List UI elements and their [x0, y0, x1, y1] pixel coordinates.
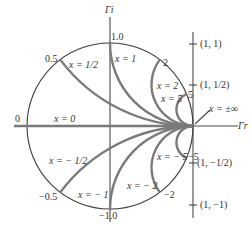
label-0-5: 0.5: [45, 53, 58, 64]
tick-label-1-neg-half: (1, −1/2): [197, 157, 232, 169]
label-top-1: 1.0: [111, 31, 124, 42]
smith-chart-diagram: Γi Γr 1.0 −1.0 0 0.5 −0.5 2 −2 5 −5 x = …: [0, 0, 251, 231]
label-5: 5: [188, 89, 193, 100]
label-neg-2: −2: [164, 189, 175, 200]
label-x-2: x = 2: [156, 80, 178, 91]
gamma-i-label: Γi: [104, 4, 114, 15]
label-x-neg-1: x = − 1: [77, 189, 108, 200]
label-left-0: 0: [15, 113, 20, 124]
label-x-0: x = 0: [53, 113, 75, 124]
label-neg-0-5: −0.5: [39, 191, 57, 202]
label-x-infinity: x = ±∞: [208, 103, 238, 114]
label-x-5: x = 5: [160, 93, 182, 104]
label-2: 2: [163, 57, 168, 68]
tick-label-1-1: (1, 1): [200, 38, 222, 50]
gamma-r-label: Γr: [237, 120, 248, 131]
label-bottom-neg-1: −1.0: [99, 210, 117, 221]
infinity-leader-line: [195, 110, 210, 124]
label-x-neg-half: x = − 1/2: [48, 155, 87, 166]
label-x-neg-5: x = − 5: [156, 151, 187, 162]
label-x-half: x = 1/2: [68, 59, 98, 70]
label-x-1: x = 1: [114, 53, 136, 64]
label-x-neg-2: x = − 2: [126, 180, 157, 191]
tick-label-1-half: (1, 1/2): [200, 79, 229, 91]
tick-label-1-neg-1: (1, −1): [200, 199, 227, 211]
